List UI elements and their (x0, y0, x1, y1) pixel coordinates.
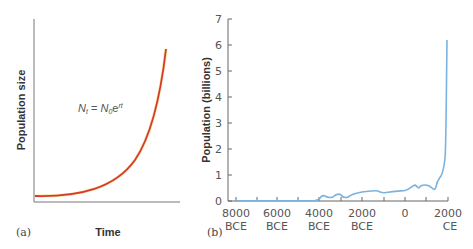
svg-text:2000: 2000 (434, 207, 462, 220)
svg-text:4000: 4000 (305, 207, 333, 220)
svg-text:4: 4 (215, 91, 222, 104)
svg-text:BCE: BCE (266, 220, 288, 233)
panel-b-y-tick-labels: 0 1 2 3 4 5 6 7 (215, 13, 222, 208)
svg-text:3: 3 (215, 117, 222, 130)
panel-a-exponential-curve (35, 49, 166, 196)
svg-text:1: 1 (215, 169, 222, 182)
svg-text:BCE: BCE (351, 220, 373, 233)
panel-a-chart: Nt = N0ert Population size Time (a) (15, 19, 180, 239)
panel-b-chart: 0 1 2 3 4 5 6 7 8000 BCE 6000 BCE (200, 13, 462, 239)
panel-a-label: (a) (16, 226, 31, 239)
panel-b-label: (b) (207, 226, 223, 239)
panel-a-y-axis-title: Population size (15, 70, 27, 151)
svg-text:0: 0 (215, 195, 222, 208)
svg-text:2000: 2000 (348, 207, 376, 220)
svg-text:BCE: BCE (225, 220, 247, 233)
svg-text:0: 0 (402, 207, 409, 220)
panel-b-y-axis-title: Population (billions) (200, 57, 212, 163)
figure: Nt = N0ert Population size Time (a) 0 1 … (0, 0, 473, 249)
panel-a-x-axis-title: Time (95, 226, 120, 238)
svg-text:BCE: BCE (308, 220, 330, 233)
panel-b-x-tick-labels: 8000 BCE 6000 BCE 4000 BCE 2000 BCE 0 20… (222, 207, 462, 233)
svg-text:6000: 6000 (263, 207, 291, 220)
panel-b-population-curve (236, 40, 447, 201)
svg-text:CE: CE (443, 220, 458, 233)
panel-b-y-ticks (228, 19, 232, 201)
svg-text:2: 2 (215, 143, 222, 156)
panel-a-exponential-curve-line (35, 49, 166, 196)
svg-text:6: 6 (215, 39, 222, 52)
svg-text:5: 5 (215, 65, 222, 78)
svg-text:8000: 8000 (222, 207, 250, 220)
svg-text:7: 7 (215, 13, 222, 26)
panel-a-equation: Nt = N0ert (78, 102, 124, 115)
